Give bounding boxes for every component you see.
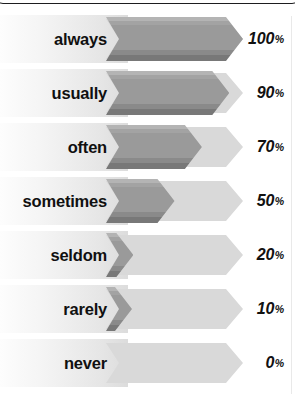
chart-row: usually 90 % — [0, 69, 295, 117]
row-track-area — [106, 123, 243, 171]
row-track-area — [106, 69, 243, 117]
value-arrow — [106, 71, 229, 115]
value-arrow — [106, 125, 202, 169]
percent-sign: % — [275, 249, 284, 261]
percent-sign: % — [275, 303, 284, 315]
row-value-number: 50 — [257, 192, 274, 210]
row-label: rarely — [63, 300, 107, 319]
row-value-number: 90 — [257, 84, 274, 102]
row-value-number: 10 — [257, 300, 274, 318]
row-value: 20 % — [257, 231, 284, 279]
percent-sign: % — [275, 357, 284, 369]
chart-row: rarely 10 % — [0, 285, 295, 333]
row-track-area — [106, 285, 243, 333]
row-label: seldom — [50, 246, 107, 265]
chart-row: sometimes 50 % — [0, 177, 295, 225]
row-value: 70 % — [257, 123, 284, 171]
row-value: 0 % — [265, 339, 284, 387]
row-value-number: 20 — [257, 246, 274, 264]
frequency-scale-chart: always 100 % usually 90 % — [0, 0, 295, 394]
row-track-area — [106, 231, 243, 279]
panel-frame-line — [0, 0, 295, 4]
row-label: always — [54, 30, 107, 49]
row-value-number: 100 — [248, 30, 274, 48]
track-arrow — [106, 343, 243, 383]
chart-row: seldom 20 % — [0, 231, 295, 279]
row-value: 50 % — [257, 177, 284, 225]
row-label: usually — [52, 84, 107, 103]
percent-sign: % — [275, 87, 284, 99]
chart-rows: always 100 % usually 90 % — [0, 15, 295, 394]
row-value: 90 % — [257, 69, 284, 117]
percent-sign: % — [275, 195, 284, 207]
row-label: often — [68, 138, 107, 157]
row-value-number: 0 — [265, 354, 274, 372]
row-value: 100 % — [248, 15, 284, 63]
chart-row: often 70 % — [0, 123, 295, 171]
row-track-area — [106, 177, 243, 225]
chart-row: never 0 % — [0, 339, 295, 387]
chart-row: always 100 % — [0, 15, 295, 63]
row-track-area — [106, 15, 243, 63]
row-value-number: 70 — [257, 138, 274, 156]
value-arrow — [106, 17, 243, 61]
row-value: 10 % — [257, 285, 284, 333]
row-label: never — [64, 354, 107, 373]
row-track-area — [106, 339, 243, 387]
percent-sign: % — [275, 33, 284, 45]
row-label: sometimes — [23, 192, 107, 211]
percent-sign: % — [275, 141, 284, 153]
